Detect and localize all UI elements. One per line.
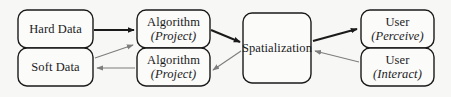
diagram-canvas: Hard Data Soft Data Algorithm (Project) … xyxy=(0,0,451,97)
node-shape-user-perceive xyxy=(361,10,434,48)
diagram-vector-layer xyxy=(0,0,451,97)
edge-spatialization-to-algorithm-bottom xyxy=(213,51,241,70)
node-shape-algorithm-project-bottom xyxy=(137,48,210,86)
edge-soft-data-to-algorithm-top xyxy=(95,45,133,58)
node-shape-spatialization xyxy=(243,13,311,83)
node-shape-hard-data xyxy=(18,10,93,48)
edge-user-interact-to-spatialization xyxy=(315,51,359,62)
node-shape-algorithm-project-top xyxy=(137,10,210,48)
edge-arrows xyxy=(94,29,359,70)
edge-algorithm-to-spatialization xyxy=(211,30,240,42)
edge-spatialization-to-user-perceive xyxy=(313,29,357,41)
node-shapes xyxy=(18,10,434,86)
node-shape-soft-data xyxy=(18,48,93,86)
node-shape-user-interact xyxy=(361,48,434,86)
